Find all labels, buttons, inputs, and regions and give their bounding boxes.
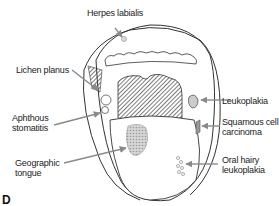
pharynx — [118, 74, 182, 120]
herpes-labialis-lesion — [122, 37, 127, 42]
upper-teeth — [105, 52, 197, 67]
arrow-aphthous-stomatitis — [54, 113, 100, 125]
label-squamous-cell-carcinoma-line1: Squamous cell — [222, 117, 278, 127]
label-oral-hairy-leukoplakia-line2: leukoplakia — [222, 165, 265, 175]
label-geographic-tongue-line2: tongue — [15, 168, 41, 178]
leukoplakia-lesion — [188, 95, 198, 108]
label-aphthous-stomatitis-line2: stomatitis — [12, 123, 48, 133]
label-oral-hairy-leukoplakia-line1: Oral hairy — [222, 155, 259, 165]
tongue — [110, 116, 200, 200]
squamous-cell-carcinoma-lesion — [196, 120, 200, 134]
label-geographic-tongue-line1: Geographic — [15, 158, 60, 168]
aphthous-lesion-small — [102, 107, 109, 114]
label-squamous-cell-carcinoma-line2: carcinoma — [222, 127, 262, 137]
aphthous-lesion — [101, 95, 111, 105]
panel-letter: D — [2, 193, 11, 206]
label-leukoplakia: Leukoplakia — [222, 96, 268, 106]
label-lichen-planus: Lichen planus — [16, 65, 69, 75]
label-herpes-labialis: Herpes labialis — [87, 8, 143, 18]
label-aphthous-stomatitis-line1: Aphthous — [12, 113, 48, 123]
